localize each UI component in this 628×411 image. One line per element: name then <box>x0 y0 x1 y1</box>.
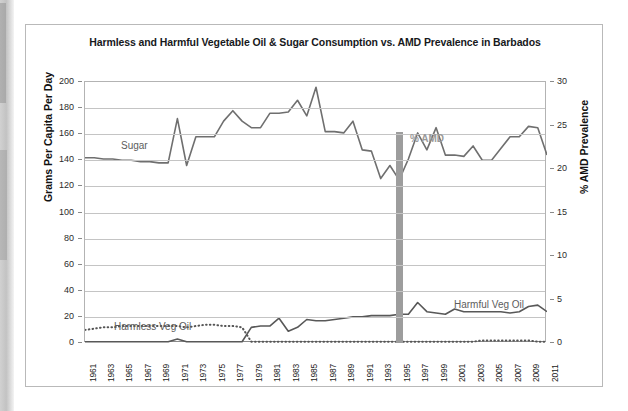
y-axis-left-tick-label: 120 <box>59 180 74 190</box>
y-axis-right-tick-label: 5 <box>557 294 584 304</box>
scanner-edge-smudge-mid <box>0 150 7 260</box>
x-axis-tick-label: 1983 <box>291 364 301 382</box>
y-axis-right-tick-label: 0 <box>557 337 584 347</box>
y-axis-left-tickmark <box>78 238 82 239</box>
series-label-harmful-veg-oil: Harmful Veg Oil <box>454 299 524 310</box>
x-axis-tick-label: 2011 <box>550 365 560 382</box>
x-axis-tick-label: 1973 <box>198 364 208 382</box>
series-label-harmless-veg-oil: Harmless Veg Oil <box>114 321 191 332</box>
y-axis-left-tick-label: 100 <box>59 207 74 217</box>
chart-frame: Harmless and Harmful Vegetable Oil & Sug… <box>25 24 603 387</box>
x-axis-tick-label: 1967 <box>143 364 153 382</box>
x-axis-tick-label: 1993 <box>383 364 393 382</box>
y-axis-left-tick-label: 80 <box>64 233 74 243</box>
x-axis-tick-label: 1965 <box>124 364 134 382</box>
x-axis-tick-label: 1999 <box>439 364 449 382</box>
x-axis-tick-label: 2009 <box>531 364 541 382</box>
y-axis-left-tick-label: 140 <box>59 154 74 164</box>
x-axis-tick-label: 2001 <box>457 364 467 382</box>
x-axis-tick-label: 1989 <box>346 364 356 382</box>
x-axis-tick-label: 1969 <box>161 364 171 382</box>
y-axis-left-tickmark <box>78 316 82 317</box>
y-axis-right-tick-label: 15 <box>557 207 584 217</box>
y-axis-left-tickmark <box>78 264 82 265</box>
series-label-amd: % AMD <box>410 133 444 144</box>
y-axis-right-tickmark <box>550 342 554 343</box>
x-axis-tick-label: 1995 <box>402 364 412 382</box>
y-axis-right-tickmark <box>550 125 554 126</box>
x-axis-tick-label: 1981 <box>272 364 282 382</box>
gridline <box>85 291 545 292</box>
y-axis-right-tick-label: 10 <box>557 250 584 260</box>
x-axis-ticks: 1961196319651967196919711973197519771979… <box>84 344 546 388</box>
x-axis-tick-label: 2005 <box>494 364 504 382</box>
y-axis-right-tickmark <box>550 212 554 213</box>
y-axis-right-tickmark <box>550 81 554 82</box>
y-axis-right-tickmark <box>550 168 554 169</box>
y-axis-right-ticks: 051015202530 <box>550 81 584 342</box>
y-axis-right-tickmark <box>550 255 554 256</box>
y-axis-left-tickmark <box>78 342 82 343</box>
x-axis-tick-label: 1987 <box>328 364 338 382</box>
x-axis-tick-label: 1977 <box>235 364 245 382</box>
gridline <box>85 108 545 109</box>
y-axis-left-tick-label: 60 <box>64 259 74 269</box>
y-axis-left-tickmark <box>78 185 82 186</box>
gridline <box>85 213 545 214</box>
gridline <box>85 134 545 135</box>
y-axis-left-tick-label: 20 <box>64 311 74 321</box>
y-axis-left-tick-label: 200 <box>59 76 74 86</box>
chart-title: Harmless and Harmful Vegetable Oil & Sug… <box>78 35 552 50</box>
gridline <box>85 186 545 187</box>
y-axis-right-tick-label: 25 <box>557 120 584 130</box>
y-axis-left-tick-label: 180 <box>59 102 74 112</box>
y-axis-left-tickmark <box>78 107 82 108</box>
scanner-edge-smudge-top <box>0 3 6 103</box>
y-axis-right-tick-label: 30 <box>557 76 584 86</box>
y-axis-left-tickmark <box>78 290 82 291</box>
x-axis-tick-label: 1971 <box>180 364 190 382</box>
y-axis-left-ticks: 020406080100120140160180200 <box>34 81 78 342</box>
y-axis-right-tick-label: 20 <box>557 163 584 173</box>
x-axis-tick-label: 1985 <box>309 364 319 382</box>
x-axis-tick-label: 2007 <box>513 364 523 382</box>
x-axis-tick-label: 1975 <box>217 364 227 382</box>
x-axis-tick-label: 1991 <box>365 364 375 382</box>
gridline <box>85 239 545 240</box>
series-label-sugar: Sugar <box>121 140 148 151</box>
y-axis-left-tick-label: 0 <box>69 337 74 347</box>
x-axis-tick-label: 1979 <box>254 364 264 382</box>
y-axis-left-tickmark <box>78 212 82 213</box>
y-axis-left-tickmark <box>78 81 82 82</box>
y-axis-left-tick-label: 160 <box>59 128 74 138</box>
y-axis-right-tickmark <box>550 299 554 300</box>
x-axis-tick-label: 1961 <box>88 364 98 382</box>
y-axis-left-tickmark <box>78 133 82 134</box>
y-axis-left-tickmark <box>78 159 82 160</box>
x-axis-tick-label: 1997 <box>420 364 430 382</box>
gridline <box>85 160 545 161</box>
x-axis-tick-label: 2003 <box>476 364 486 382</box>
gridline <box>85 265 545 266</box>
y-axis-left-tick-label: 40 <box>64 285 74 295</box>
gridline <box>85 317 545 318</box>
x-axis-tick-label: 1963 <box>106 364 116 382</box>
